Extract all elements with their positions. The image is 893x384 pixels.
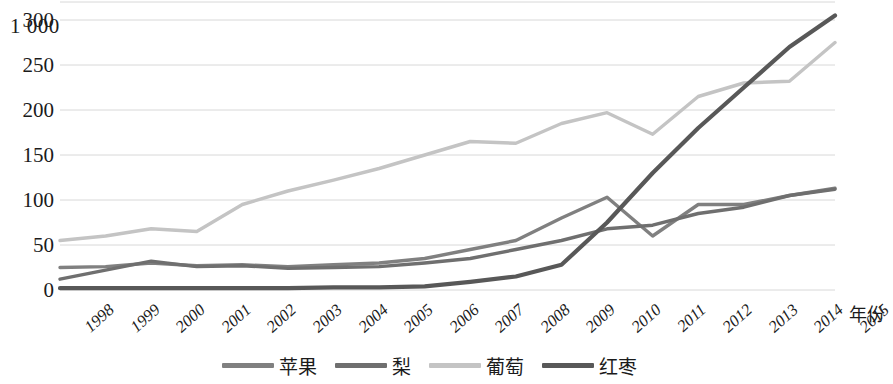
chart-legend: 苹果梨葡萄红枣 (0, 352, 859, 379)
legend-swatch-icon (429, 363, 481, 368)
x-axis-tick-label: 2013 (764, 300, 802, 337)
y-axis-tick-label: 150 (0, 143, 54, 168)
legend-item[interactable]: 梨 (335, 352, 411, 379)
x-axis-tick-label: 2000 (172, 300, 210, 337)
x-axis-title: 年份 (849, 300, 885, 326)
x-axis-tick-label: 1998 (80, 300, 118, 337)
y-axis-tick-label: 300 (0, 8, 54, 33)
x-axis-tick-label: 2009 (582, 300, 620, 337)
series-lines (60, 16, 835, 289)
legend-label: 红枣 (599, 352, 637, 379)
plot-area (60, 20, 835, 290)
y-axis-tick-label: 200 (0, 98, 54, 123)
legend-label: 苹果 (279, 352, 317, 379)
x-axis-tick-label: 2011 (673, 300, 710, 336)
x-axis-tick-label: 2003 (308, 300, 346, 337)
plot-svg (60, 20, 835, 290)
x-axis-tick-label: 2008 (536, 300, 574, 337)
series-line-3 (60, 16, 835, 289)
legend-item[interactable]: 葡萄 (429, 352, 524, 379)
x-axis-tick-label: 2001 (217, 300, 255, 337)
legend-label: 梨 (392, 352, 411, 379)
x-axis-tick-label: 2014 (810, 300, 848, 337)
x-axis-tick-label: 2005 (400, 300, 438, 337)
legend-item[interactable]: 苹果 (222, 352, 317, 379)
series-line-1 (60, 189, 835, 279)
legend-swatch-icon (542, 363, 594, 368)
gridlines (60, 2, 835, 290)
legend-item[interactable]: 红枣 (542, 352, 637, 379)
y-axis-tick-label: 50 (0, 233, 54, 258)
legend-swatch-icon (335, 363, 387, 368)
x-axis-tick-label: 2006 (445, 300, 483, 337)
x-axis-tick-label: 2004 (354, 300, 392, 337)
x-axis-tick-label: 2010 (628, 300, 666, 337)
y-axis-tick-label: 100 (0, 188, 54, 213)
y-axis-tick-label: 0 (0, 278, 54, 303)
legend-swatch-icon (222, 363, 274, 368)
x-axis-tick-label: 2007 (491, 300, 529, 337)
y-axis-tick-label: 250 (0, 53, 54, 78)
legend-label: 葡萄 (486, 352, 524, 379)
x-axis-tick-label: 1999 (126, 300, 164, 337)
x-axis-tick-label: 2012 (719, 300, 757, 337)
x-axis-tick-label: 2002 (263, 300, 301, 337)
